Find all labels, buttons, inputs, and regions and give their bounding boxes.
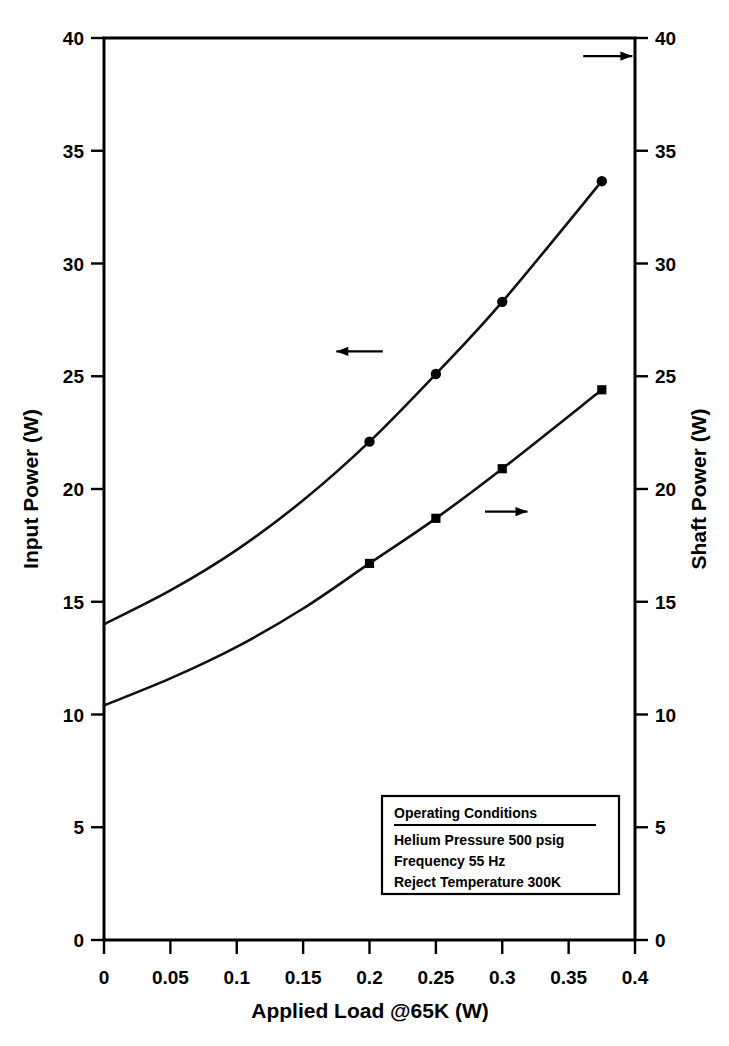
y-axis-left-ticks [91, 38, 104, 940]
arrow-right-top-shaft-axis [583, 51, 632, 60]
y-axis-left-tick-label: 0 [73, 930, 84, 951]
y-axis-right-title: Shaft Power (W) [687, 409, 710, 570]
y-axis-right-ticks [635, 38, 648, 940]
arrow-head [620, 51, 632, 60]
operating-conditions-box: Operating Conditions Helium Pressure 500… [382, 796, 619, 894]
y-axis-right-tick-label: 20 [655, 479, 676, 500]
data-point-marker [364, 436, 374, 446]
arrow-head [515, 507, 527, 516]
x-axis-tick-label: 0 [99, 967, 110, 988]
legend-line-reject-temperature: Reject Temperature 300K [394, 874, 561, 890]
y-axis-right-tick-label: 0 [655, 930, 666, 951]
chart-figure: 0510152025303540 0510152025303540 00.050… [0, 0, 729, 1046]
y-axis-right-tick-label: 30 [655, 254, 676, 275]
y-axis-left-tick-label: 15 [63, 592, 85, 613]
arrow-left-input-power [336, 347, 382, 356]
y-axis-left-tick-label: 5 [73, 817, 84, 838]
series-curves [104, 181, 602, 705]
x-axis-tick-label: 0.05 [152, 967, 189, 988]
x-axis-tick-label: 0.35 [550, 967, 587, 988]
data-point-marker [597, 176, 607, 186]
annotation-arrows [336, 51, 632, 516]
y-axis-right-tick-labels: 0510152025303540 [655, 28, 677, 951]
data-point-marker [431, 514, 440, 523]
x-axis-tick-label: 0.1 [224, 967, 251, 988]
y-axis-left-tick-label: 20 [63, 479, 84, 500]
dual-axis-line-chart: 0510152025303540 0510152025303540 00.050… [0, 0, 729, 1046]
x-axis-tick-label: 0.2 [356, 967, 382, 988]
y-axis-right-tick-label: 5 [655, 817, 666, 838]
y-axis-right-tick-label: 25 [655, 366, 677, 387]
y-axis-right-tick-label: 35 [655, 141, 677, 162]
legend-line-frequency: Frequency 55 Hz [394, 853, 505, 869]
y-axis-left-tick-label: 25 [63, 366, 85, 387]
data-point-marker [497, 297, 507, 307]
y-axis-left-tick-label: 35 [63, 141, 85, 162]
series-markers [364, 176, 607, 568]
y-axis-left-tick-labels: 0510152025303540 [63, 28, 85, 951]
x-axis-tick-label: 0.3 [489, 967, 515, 988]
x-axis-ticks [104, 940, 635, 954]
y-axis-left-tick-label: 10 [63, 705, 84, 726]
x-axis-tick-labels: 00.050.10.150.20.250.30.350.4 [99, 967, 649, 988]
data-point-marker [597, 385, 606, 394]
x-axis-tick-label: 0.4 [622, 967, 649, 988]
series-line-input-power [104, 181, 602, 624]
arrow-right-shaft-power [485, 507, 527, 516]
y-axis-right-tick-label: 40 [655, 28, 676, 49]
x-axis-tick-label: 0.25 [417, 967, 454, 988]
y-axis-left-tick-label: 30 [63, 254, 84, 275]
y-axis-left-tick-label: 40 [63, 28, 84, 49]
legend-line-helium-pressure: Helium Pressure 500 psig [394, 832, 564, 848]
data-point-marker [365, 559, 374, 568]
series-line-shaft-power [104, 390, 602, 706]
y-axis-left-title: Input Power (W) [19, 409, 42, 569]
x-axis-title: Applied Load @65K (W) [251, 999, 488, 1022]
x-axis-tick-label: 0.15 [285, 967, 322, 988]
y-axis-right-tick-label: 15 [655, 592, 677, 613]
data-point-marker [431, 369, 441, 379]
legend-title: Operating Conditions [394, 805, 537, 821]
data-point-marker [498, 464, 507, 473]
arrow-head [336, 347, 348, 356]
y-axis-right-tick-label: 10 [655, 705, 676, 726]
